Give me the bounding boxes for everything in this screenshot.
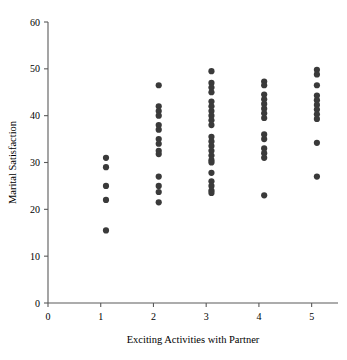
data-point <box>208 89 214 95</box>
y-tick-label: 20 <box>30 204 40 215</box>
y-tick-label: 10 <box>30 251 40 262</box>
data-point <box>103 155 109 161</box>
scatter-plot-figure: 0102030405060 012345 Exciting Activities… <box>0 0 347 360</box>
data-point <box>208 122 214 128</box>
data-point <box>103 183 109 189</box>
data-point <box>103 164 109 170</box>
x-tick-label: 3 <box>204 311 209 322</box>
data-point <box>156 127 162 133</box>
y-axis-tick-labels: 0102030405060 <box>30 17 40 309</box>
data-point <box>156 151 162 157</box>
data-point <box>156 113 162 119</box>
data-point <box>103 197 109 203</box>
data-points-layer <box>103 67 320 234</box>
y-tick-label: 60 <box>30 17 40 28</box>
x-tick-label: 0 <box>46 311 51 322</box>
data-point <box>103 227 109 233</box>
data-point <box>314 82 320 88</box>
x-axis-title: Exciting Activities with Partner <box>127 334 260 345</box>
data-point <box>314 140 320 146</box>
x-tick-label: 5 <box>309 311 314 322</box>
x-axis-tick-labels: 012345 <box>46 311 315 322</box>
y-tick-label: 50 <box>30 63 40 74</box>
x-axis-tick-marks <box>48 303 312 307</box>
y-tick-label: 0 <box>35 298 40 309</box>
data-point <box>261 155 267 161</box>
data-point <box>261 192 267 198</box>
data-point <box>314 71 320 77</box>
data-point <box>261 115 267 121</box>
data-point <box>208 68 214 74</box>
x-tick-label: 2 <box>151 311 156 322</box>
x-tick-label: 1 <box>98 311 103 322</box>
data-point <box>208 190 214 196</box>
plot-canvas: 0102030405060 012345 Exciting Activities… <box>0 0 347 360</box>
data-point <box>156 82 162 88</box>
data-point <box>156 173 162 179</box>
data-point <box>314 116 320 122</box>
x-tick-label: 4 <box>256 311 261 322</box>
data-point <box>314 173 320 179</box>
data-point <box>261 82 267 88</box>
data-point <box>156 199 162 205</box>
data-point <box>156 189 162 195</box>
data-point <box>208 159 214 165</box>
data-point <box>208 170 214 176</box>
y-tick-label: 30 <box>30 157 40 168</box>
data-point <box>261 136 267 142</box>
y-axis-tick-marks <box>44 22 48 303</box>
data-point <box>156 141 162 147</box>
data-point <box>156 183 162 189</box>
y-axis-title: Marital Satisfaction <box>7 120 18 204</box>
y-tick-label: 40 <box>30 110 40 121</box>
